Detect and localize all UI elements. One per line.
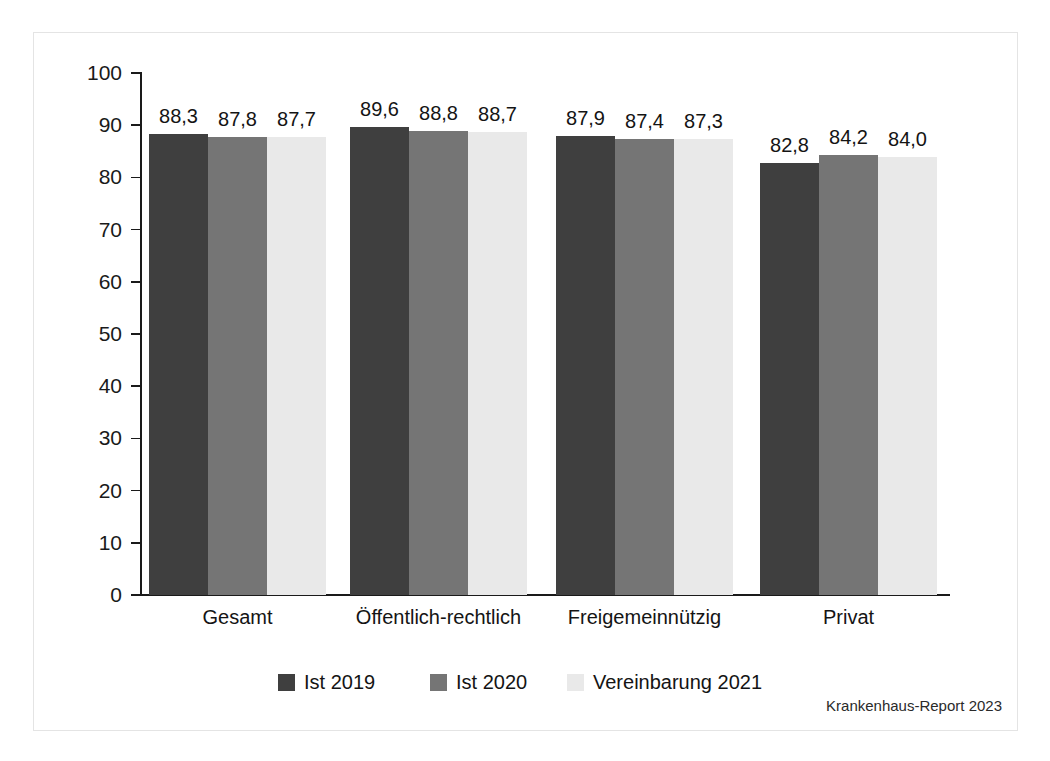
- y-axis-tick: [131, 542, 140, 544]
- bar-value-label: 88,3: [149, 106, 208, 126]
- y-axis-tick: [131, 594, 140, 596]
- y-axis-tick-label: 30: [62, 427, 122, 448]
- y-axis-tick-label: 0: [62, 584, 122, 605]
- bar-value-label: 87,8: [208, 109, 267, 129]
- chart-page: 0102030405060708090100 88,387,887,789,68…: [0, 0, 1050, 761]
- chart-legend: Ist 2019Ist 2020Vereinbarung 2021: [0, 668, 1050, 698]
- bar-value-label: 87,9: [556, 108, 615, 128]
- legend-item: Ist 2020: [430, 672, 527, 692]
- source-note: Krankenhaus-Report 2023: [826, 697, 1002, 714]
- y-axis-tick: [131, 438, 140, 440]
- legend-label: Vereinbarung 2021: [593, 672, 762, 692]
- y-axis-tick-label: 20: [62, 480, 122, 501]
- y-axis-tick-label: 60: [62, 271, 122, 292]
- bar: [267, 137, 326, 595]
- bar-value-label: 87,4: [615, 111, 674, 131]
- bar-value-label: 87,7: [267, 109, 326, 129]
- y-axis-tick: [131, 385, 140, 387]
- legend-swatch-icon: [430, 674, 447, 691]
- legend-item: Vereinbarung 2021: [567, 672, 762, 692]
- y-axis-line: [140, 72, 142, 596]
- bar-value-label: 84,0: [878, 129, 937, 149]
- y-axis-tick: [131, 333, 140, 335]
- bar: [556, 136, 615, 595]
- y-axis-tick-label: 80: [62, 166, 122, 187]
- bar: [615, 139, 674, 595]
- y-axis-tick: [131, 124, 140, 126]
- bar: [878, 157, 937, 595]
- bar: [760, 163, 819, 595]
- x-axis-category-label: Privat: [699, 605, 999, 629]
- bar: [674, 139, 733, 595]
- y-axis-tick-label: 70: [62, 219, 122, 240]
- legend-swatch-icon: [567, 674, 584, 691]
- y-axis-tick: [131, 490, 140, 492]
- bar-value-label: 84,2: [819, 127, 878, 147]
- y-axis-tick: [131, 72, 140, 74]
- y-axis-tick-label: 40: [62, 375, 122, 396]
- bar: [149, 134, 208, 595]
- bar-value-label: 87,3: [674, 111, 733, 131]
- bar-value-label: 88,8: [409, 103, 468, 123]
- y-axis-tick: [131, 229, 140, 231]
- legend-item: Ist 2019: [278, 672, 375, 692]
- bar-value-label: 88,7: [468, 104, 527, 124]
- y-axis-tick-label: 50: [62, 323, 122, 344]
- bar: [208, 137, 267, 595]
- y-axis-tick-label: 10: [62, 532, 122, 553]
- y-axis-tick-label: 100: [62, 62, 122, 83]
- bar: [409, 131, 468, 595]
- bar-value-label: 82,8: [760, 135, 819, 155]
- bar: [819, 155, 878, 595]
- y-axis-tick-label: 90: [62, 114, 122, 135]
- y-axis-tick: [131, 177, 140, 179]
- bar: [468, 132, 527, 595]
- bar-value-label: 89,6: [350, 99, 409, 119]
- y-axis-tick: [131, 281, 140, 283]
- legend-swatch-icon: [278, 674, 295, 691]
- legend-label: Ist 2019: [304, 672, 375, 692]
- bar: [350, 127, 409, 595]
- legend-label: Ist 2020: [456, 672, 527, 692]
